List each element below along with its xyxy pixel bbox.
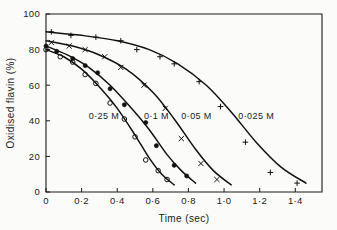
data-curves xyxy=(46,32,306,185)
series-curve-3 xyxy=(46,32,306,183)
marker-open-circle xyxy=(143,158,148,163)
y-axis-tick-labels: 020406080100 xyxy=(23,8,40,197)
y-tick-label: 80 xyxy=(29,44,40,55)
x-tick-label: 1·0 xyxy=(217,195,232,206)
marker-open-circle xyxy=(108,101,113,106)
plot-frame xyxy=(46,14,322,192)
marker-plus xyxy=(171,61,177,67)
marker-filled-circle xyxy=(144,120,148,124)
marker-plus xyxy=(196,79,202,85)
plot-border xyxy=(46,14,322,192)
y-tick-label: 100 xyxy=(23,8,40,19)
marker-cross xyxy=(214,177,219,182)
x-tick-label: 1·4 xyxy=(288,195,303,206)
series-label-3: 0·025 M xyxy=(238,111,274,121)
marker-plus xyxy=(93,34,99,40)
marker-filled-circle xyxy=(83,64,87,68)
marker-filled-circle xyxy=(154,144,158,148)
y-tick-label: 60 xyxy=(29,80,40,91)
marker-filled-circle xyxy=(71,56,75,60)
x-tick-label: 1·2 xyxy=(252,195,267,206)
marker-filled-circle xyxy=(55,49,59,53)
y-axis-title: Oxidised flavin (%) xyxy=(5,58,16,149)
marker-filled-circle xyxy=(172,163,176,167)
x-axis-title: Time (sec) xyxy=(159,213,210,224)
x-tick-label: 0·6 xyxy=(146,195,161,206)
y-tick-label: 40 xyxy=(29,115,40,126)
marker-filled-circle xyxy=(44,44,48,48)
marker-plus xyxy=(49,29,55,35)
x-tick-label: 0 xyxy=(43,195,49,206)
marker-cross xyxy=(179,136,184,141)
series-label-0: 0·25 M xyxy=(89,111,119,121)
series-label-1: 0·1 M xyxy=(144,111,169,121)
x-tick-label: 0·8 xyxy=(181,195,196,206)
marker-plus xyxy=(243,139,249,145)
marker-filled-circle xyxy=(108,87,112,91)
series-annotations: 0·25 M0·1 M0·05 M0·025 M xyxy=(89,111,274,121)
x-tick-label: 0·2 xyxy=(74,195,89,206)
marker-filled-circle xyxy=(185,174,189,178)
chart-svg: 00·20·40·60·81·01·21·4 020406080100 0·25… xyxy=(0,0,337,230)
y-tick-label: 0 xyxy=(34,186,40,197)
data-markers xyxy=(44,29,300,186)
marker-cross xyxy=(198,161,203,166)
x-axis-tick-labels: 00·20·40·60·81·01·21·4 xyxy=(43,195,302,206)
marker-plus xyxy=(218,104,224,110)
series-label-2: 0·05 M xyxy=(181,111,211,121)
y-tick-label: 20 xyxy=(29,151,40,162)
marker-plus xyxy=(134,47,140,53)
marker-filled-circle xyxy=(96,71,100,75)
marker-filled-circle xyxy=(122,103,126,107)
x-tick-label: 0·4 xyxy=(110,195,125,206)
marker-plus xyxy=(268,170,274,176)
marker-plus xyxy=(294,180,300,186)
axis-tick-marks xyxy=(46,14,295,192)
chart-figure: 00·20·40·60·81·01·21·4 020406080100 0·25… xyxy=(0,0,337,230)
